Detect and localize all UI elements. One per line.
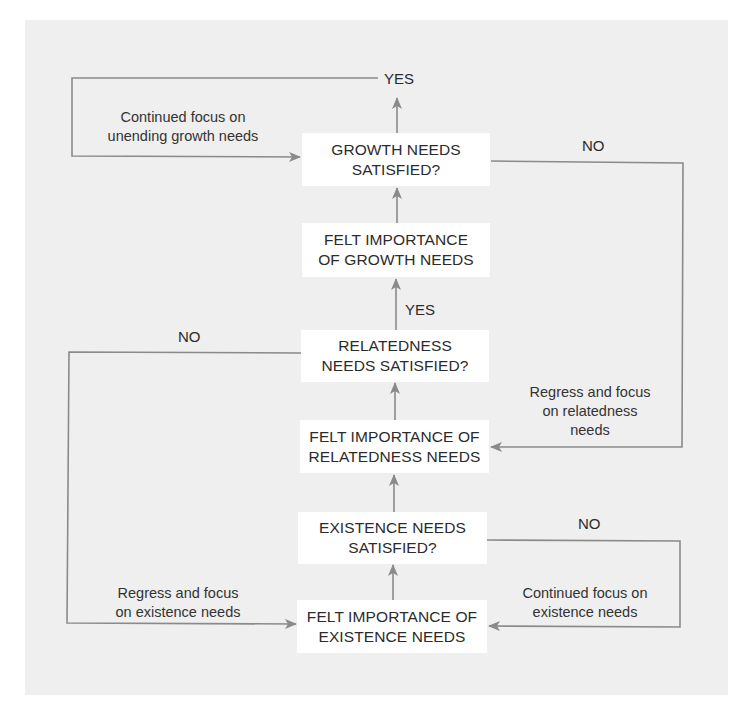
label-relatedness-yes: YES <box>405 300 435 319</box>
label-existence-no: NO <box>578 514 601 533</box>
node-relatedness-importance: FELT IMPORTANCE OFRELATEDNESS NEEDS <box>300 420 489 473</box>
node-text: SATISFIED? <box>352 161 441 178</box>
node-existence-satisfied: EXISTENCE NEEDSSATISFIED? <box>298 512 487 564</box>
label-text: on relatedness <box>542 403 637 419</box>
label-text: unending growth needs <box>108 128 259 144</box>
label-text: Regress and focus <box>118 585 239 601</box>
node-text: RELATEDNESS <box>338 337 452 354</box>
label-growth-yes: YES <box>384 69 414 88</box>
label-text: Regress and focus <box>530 384 651 400</box>
node-existence-importance: FELT IMPORTANCE OFEXISTENCE NEEDS <box>297 600 487 653</box>
node-growth-importance: FELT IMPORTANCEOF GROWTH NEEDS <box>302 223 490 277</box>
label-regress-relatedness: Regress and focus on relatedness needs <box>510 383 670 440</box>
label-growth-no: NO <box>582 136 605 155</box>
label-relatedness-no: NO <box>178 327 201 346</box>
node-relatedness-satisfied: RELATEDNESSNEEDS SATISFIED? <box>301 330 489 382</box>
label-continued-existence: Continued focus on existence needs <box>505 584 665 622</box>
node-text: RELATEDNESS NEEDS <box>309 448 481 465</box>
label-text: Continued focus on <box>121 109 246 125</box>
node-text: SATISFIED? <box>348 539 437 556</box>
node-text: NEEDS SATISFIED? <box>322 357 469 374</box>
label-text: Continued focus on <box>523 585 648 601</box>
node-text: FELT IMPORTANCE <box>324 231 468 248</box>
label-text: existence needs <box>533 604 638 620</box>
node-text: EXISTENCE NEEDS <box>319 519 466 536</box>
node-growth-satisfied: GROWTH NEEDSSATISFIED? <box>302 133 490 186</box>
label-text: needs <box>570 422 610 438</box>
label-continued-growth: Continued focus on unending growth needs <box>88 108 278 146</box>
label-regress-existence: Regress and focus on existence needs <box>98 584 258 622</box>
node-text: GROWTH NEEDS <box>331 141 461 158</box>
node-text: OF GROWTH NEEDS <box>318 251 474 268</box>
label-text: on existence needs <box>116 604 241 620</box>
node-text: FELT IMPORTANCE OF <box>307 608 477 625</box>
node-text: EXISTENCE NEEDS <box>318 628 465 645</box>
node-text: FELT IMPORTANCE OF <box>309 428 479 445</box>
